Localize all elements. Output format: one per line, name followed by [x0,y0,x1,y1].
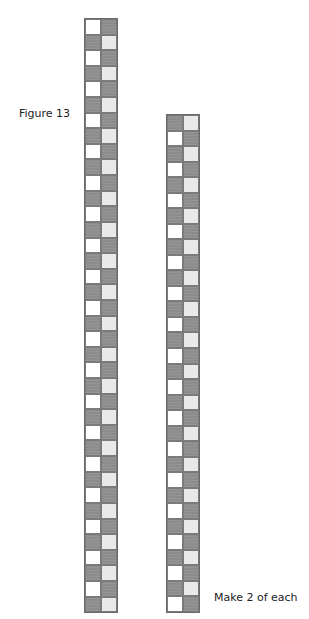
dark-square [101,19,117,35]
white-square [85,19,101,35]
light-square [101,409,117,425]
strip-row [167,193,199,209]
light-square [101,597,117,613]
white-square [85,81,101,97]
dark-square [167,177,183,193]
light-square [183,301,199,317]
dark-square [85,316,101,332]
dark-square [183,565,199,581]
strip-row [167,364,199,380]
figure-title: Figure 13 [19,107,70,120]
light-square [183,426,199,442]
white-square [167,255,183,271]
dark-square [101,81,117,97]
dark-square [85,534,101,550]
light-square [101,378,117,394]
strip-row [85,19,117,35]
light-square [101,222,117,238]
strip-row [85,97,117,113]
dark-square [183,503,199,519]
strip-row [85,362,117,378]
strip-row [85,425,117,441]
make-note: Make 2 of each [214,591,298,604]
light-square [101,284,117,300]
dark-square [101,425,117,441]
dark-square [183,131,199,147]
white-square [85,206,101,222]
strip-row [85,534,117,550]
strip-row [85,35,117,51]
white-square [167,565,183,581]
strip-row [167,410,199,426]
strip-row [85,269,117,285]
white-square [167,441,183,457]
light-square [101,35,117,51]
white-square [167,162,183,178]
dark-square [85,66,101,82]
strip-row [85,113,117,129]
light-square [101,534,117,550]
strip-row [85,550,117,566]
strip-row [167,255,199,271]
strip-row [167,162,199,178]
strip-row [167,131,199,147]
dark-square [101,550,117,566]
strip-row [167,379,199,395]
strip-row [85,378,117,394]
strip-row [85,331,117,347]
strip-row [85,347,117,363]
dark-square [167,270,183,286]
light-square [183,488,199,504]
dark-square [167,395,183,411]
strip-row [85,159,117,175]
left-strip [84,18,118,613]
dark-square [183,348,199,364]
dark-square [183,224,199,240]
strip-row [85,222,117,238]
white-square [167,596,183,612]
white-square [85,425,101,441]
light-square [101,253,117,269]
dark-square [183,441,199,457]
dark-square [167,208,183,224]
light-square [101,565,117,581]
strip-row [167,581,199,597]
dark-square [183,317,199,333]
strip-row [85,440,117,456]
strip-row [85,128,117,144]
white-square [85,144,101,160]
dark-square [101,456,117,472]
strip-row [85,409,117,425]
strip-row [85,472,117,488]
light-square [101,316,117,332]
dark-square [101,269,117,285]
strip-row [167,503,199,519]
strip-row [167,208,199,224]
dark-square [85,597,101,613]
dark-square [85,409,101,425]
strip-row [85,238,117,254]
dark-square [183,193,199,209]
dark-square [167,550,183,566]
strip-row [85,300,117,316]
strip-row [85,581,117,597]
white-square [167,286,183,302]
light-square [101,128,117,144]
dark-square [101,238,117,254]
light-square [183,208,199,224]
dark-square [101,519,117,535]
strip-row [85,456,117,472]
dark-square [101,331,117,347]
dark-square [85,347,101,363]
dark-square [183,255,199,271]
strip-row [167,395,199,411]
light-square [101,159,117,175]
strip-row [85,66,117,82]
white-square [85,456,101,472]
light-square [101,503,117,519]
dark-square [183,596,199,612]
strip-row [85,253,117,269]
dark-square [101,206,117,222]
white-square [167,410,183,426]
dark-square [101,144,117,160]
